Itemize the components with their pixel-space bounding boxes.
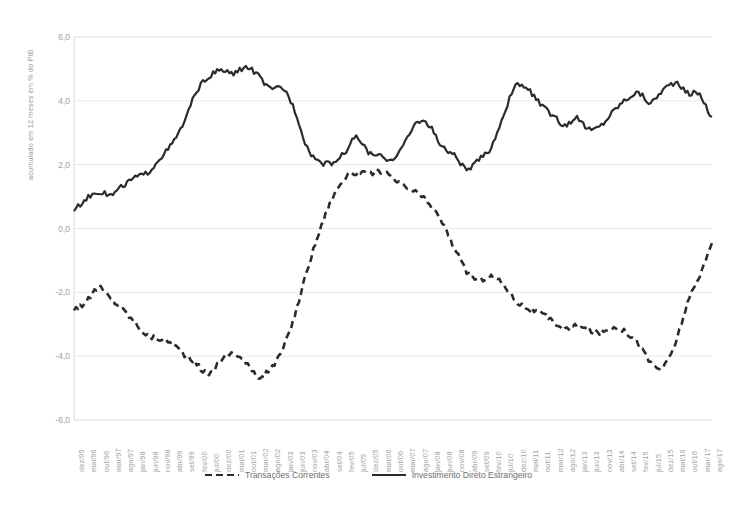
y-axis-tick-label: 2,0 bbox=[32, 160, 70, 170]
chart-legend: Transações Correntes Investimento Direto… bbox=[0, 470, 737, 480]
series-line-2 bbox=[74, 66, 712, 211]
y-axis-tick-label: -2,0 bbox=[32, 287, 70, 297]
dashed-line-swatch-icon bbox=[205, 474, 239, 477]
y-axis-tick-label: -6,0 bbox=[32, 415, 70, 425]
y-axis-tick-label: 0,0 bbox=[32, 224, 70, 234]
chart-container: acumulado em 12 meses em % do PIB 6,04,0… bbox=[0, 0, 737, 512]
legend-item-label: Transações Correntes bbox=[245, 470, 330, 480]
legend-item-transacoes-correntes[interactable]: Transações Correntes bbox=[205, 470, 330, 480]
legend-item-label: Investimento Direto Estrangeiro bbox=[412, 470, 532, 480]
y-axis-tick-label: -4,0 bbox=[32, 351, 70, 361]
solid-line-swatch-icon bbox=[372, 474, 406, 477]
series-line-1 bbox=[74, 169, 712, 378]
y-axis-ticks: 6,04,02,00,0-2,0-4,0-6,0 bbox=[18, 0, 70, 512]
plot-area bbox=[0, 0, 737, 512]
y-axis-tick-label: 4,0 bbox=[32, 96, 70, 106]
y-axis-tick-label: 6,0 bbox=[32, 32, 70, 42]
legend-item-investimento-direto-estrangeiro[interactable]: Investimento Direto Estrangeiro bbox=[372, 470, 532, 480]
